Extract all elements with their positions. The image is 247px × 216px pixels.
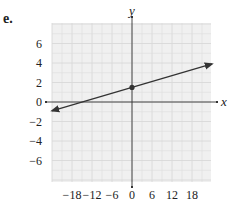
y-tick-label: 4 bbox=[36, 56, 42, 70]
y-tick-label: 0 bbox=[36, 95, 42, 109]
line-chart: xy−18−12−60612186420−2−4−6 bbox=[0, 0, 247, 216]
y-tick-label: −4 bbox=[29, 134, 42, 148]
data-point bbox=[129, 85, 134, 90]
y-tick-label: −6 bbox=[29, 154, 42, 168]
x-tick-label: 0 bbox=[129, 188, 135, 202]
x-tick-label: −12 bbox=[83, 188, 102, 202]
x-tick-label: −18 bbox=[63, 188, 82, 202]
x-axis-label: x bbox=[220, 94, 227, 109]
y-tick-label: −2 bbox=[29, 115, 42, 129]
y-axis-label: y bbox=[127, 3, 135, 18]
x-tick-label: −6 bbox=[106, 188, 119, 202]
x-tick-label: 18 bbox=[186, 188, 198, 202]
grid-background bbox=[52, 23, 211, 182]
y-tick-label: 6 bbox=[36, 37, 42, 51]
x-tick-label: 12 bbox=[166, 188, 178, 202]
y-tick-label: 2 bbox=[36, 76, 42, 90]
x-tick-label: 6 bbox=[149, 188, 155, 202]
